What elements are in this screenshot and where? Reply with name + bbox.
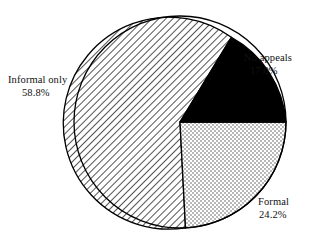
pie-chart-figure: No appeals 17.0% Informal only 58.8% For…: [0, 0, 335, 250]
pie-label-informal-only-name: Informal only: [8, 74, 67, 87]
pie-label-formal-value: 24.2%: [258, 209, 289, 222]
pie-label-informal-only: Informal only 58.8%: [8, 74, 67, 99]
pie-label-no-appeals-name: No appeals: [244, 52, 292, 65]
pie-label-no-appeals: No appeals 17.0%: [244, 52, 292, 77]
pie-label-formal-name: Formal: [258, 196, 289, 209]
pie-label-informal-only-value: 58.8%: [8, 87, 67, 100]
pie-label-formal: Formal 24.2%: [258, 196, 289, 221]
pie-label-no-appeals-value: 17.0%: [244, 65, 292, 78]
